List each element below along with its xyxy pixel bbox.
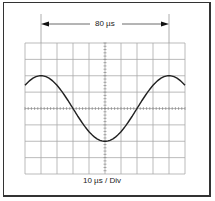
timebase-label: 10 µs / Div: [83, 176, 121, 185]
arrow-left-icon: [41, 22, 49, 27]
period-label: 80 µs: [92, 19, 118, 28]
arrow-right-icon: [161, 22, 169, 27]
oscilloscope-graticule: [0, 0, 215, 201]
